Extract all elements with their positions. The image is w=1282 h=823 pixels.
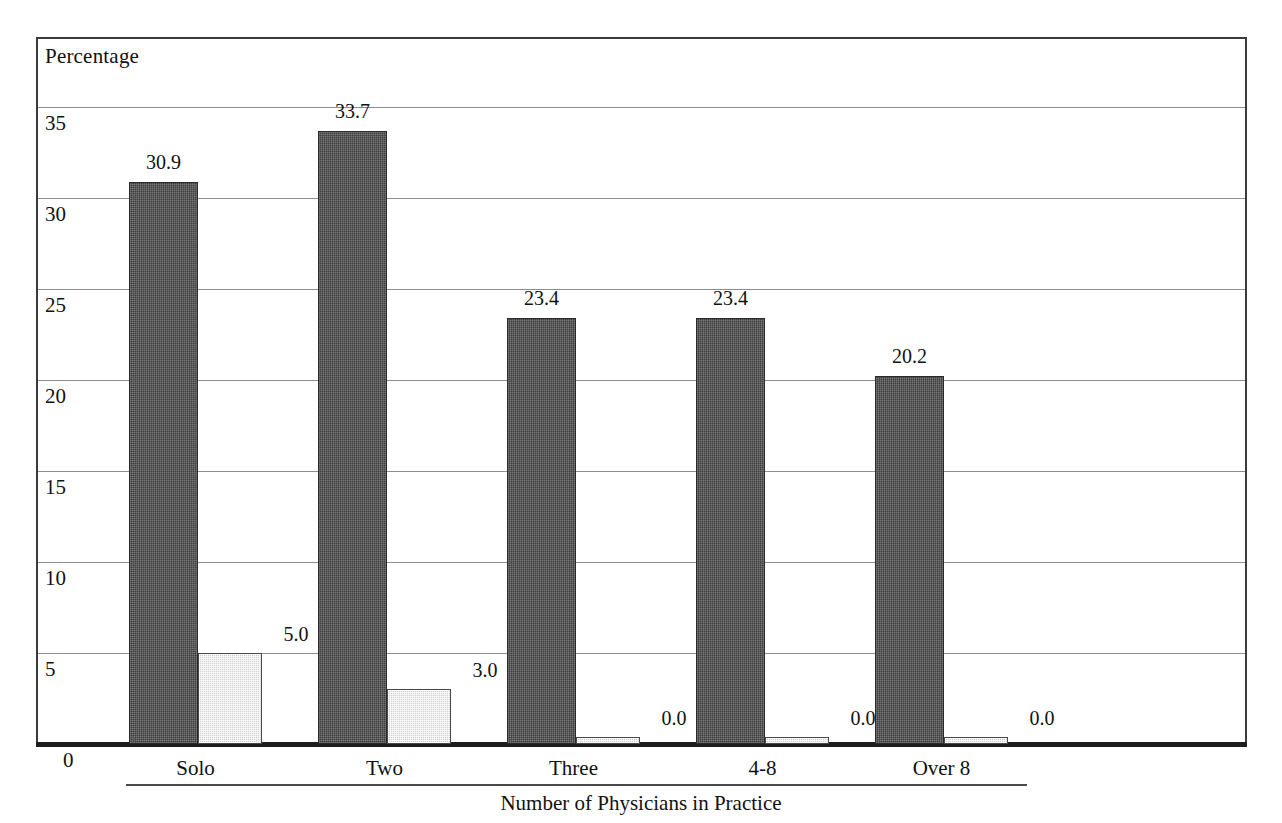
- x-axis-title: Number of Physicians in Practice: [0, 789, 1282, 817]
- gridline-15: [38, 471, 1245, 472]
- x-axis-baseline: [36, 742, 1247, 747]
- x-tick-label-solo: Solo: [176, 754, 215, 782]
- plot-area-frame: [36, 37, 1247, 744]
- gridline-35: [38, 107, 1245, 108]
- x-tick-label-two: Two: [366, 754, 403, 782]
- bar-chart-figure: Percentage 35302520151050 30.95.033.73.0…: [0, 0, 1282, 823]
- y-tick-label-20: 20: [45, 384, 66, 408]
- y-tick-label-25: 25: [45, 293, 66, 317]
- x-tick-label-4-8: 4-8: [749, 754, 777, 782]
- y-tick-label-30: 30: [45, 202, 66, 226]
- y-tick-label-35: 35: [45, 111, 66, 135]
- gridline-30: [38, 198, 1245, 199]
- gridline-20: [38, 380, 1245, 381]
- gridline-5: [38, 653, 1245, 654]
- x-axis-tick-labels: SoloTwoThree4-8Over 8: [0, 754, 1282, 786]
- y-tick-label-5: 5: [45, 657, 56, 681]
- y-tick-label-15: 15: [45, 475, 66, 499]
- gridline-10: [38, 562, 1245, 563]
- x-tick-label-three: Three: [549, 754, 598, 782]
- y-axis-title: Percentage: [45, 44, 139, 69]
- x-axis-rule: [126, 784, 1027, 786]
- y-tick-label-10: 10: [45, 566, 66, 590]
- gridline-25: [38, 289, 1245, 290]
- x-tick-label-over-8: Over 8: [913, 754, 971, 782]
